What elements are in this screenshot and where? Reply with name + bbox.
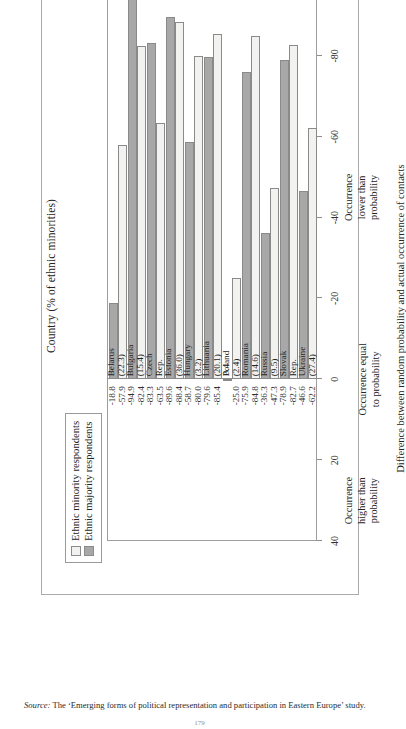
rotated-figure: Country (% of ethnic minorities) Ethnic … bbox=[35, 0, 365, 607]
category-label: Hungary (3.2) bbox=[182, 344, 203, 376]
open-square-icon bbox=[71, 546, 81, 556]
bar-group: -83.3-63.5Czech Rep. (21.0) bbox=[145, 0, 164, 541]
bar-majority bbox=[203, 58, 212, 380]
bar-group: -75.9-84.8Romania (14.6) bbox=[240, 0, 259, 541]
category-label: Belarus (22.3) bbox=[106, 348, 127, 376]
bar-value-label: -46.6 bbox=[298, 386, 307, 405]
bar-value-label: -63.5 bbox=[155, 386, 164, 405]
legend-label-majority: Ethnic majority respondents bbox=[82, 422, 95, 541]
axis-tick bbox=[317, 55, 322, 56]
bar-value-label: -79.6 bbox=[202, 386, 211, 405]
bar-value-label: -89.6 bbox=[164, 386, 173, 405]
axis-tick-label: 0 bbox=[329, 377, 340, 382]
legend-item-minority: Ethnic minority respondents bbox=[70, 421, 83, 556]
axis-tick bbox=[317, 540, 322, 541]
zone-label-higher: Occurrence higher than probability bbox=[343, 456, 381, 546]
plot-area: 40200-20-40-60-80-100 -18.8-57.9Belarus … bbox=[107, 0, 317, 541]
category-label: Romania (14.6) bbox=[239, 343, 260, 376]
bar-minority bbox=[136, 46, 145, 379]
category-axis-title: Country (% of ethnic minorities) bbox=[45, 0, 57, 607]
filled-square-icon bbox=[84, 546, 94, 556]
source-label: Source: bbox=[24, 700, 50, 710]
bar-minority bbox=[193, 56, 202, 379]
bar-minority bbox=[174, 22, 183, 379]
page-number: 179 bbox=[0, 719, 399, 727]
zone-label-lower: Occurrence lower than probability bbox=[343, 152, 381, 242]
bar-minority bbox=[308, 128, 317, 379]
bar-value-label: -57.9 bbox=[117, 386, 126, 405]
bar-value-label: -36.3 bbox=[260, 386, 269, 405]
bar-value-label: -83.3 bbox=[145, 386, 154, 405]
category-label: Estonia (36.0) bbox=[163, 349, 184, 377]
zone-label-equal: Occurrence equal to probability bbox=[357, 329, 382, 429]
bar-value-label: -85.4 bbox=[212, 386, 221, 405]
bar-group: -46.6-62.2Ukraine (27.4) bbox=[297, 0, 316, 541]
legend-label-minority: Ethnic minority respondents bbox=[70, 421, 83, 541]
bar-majority bbox=[127, 0, 136, 379]
axis-tick-label: -20 bbox=[329, 292, 340, 305]
axis-tick-label: 20 bbox=[329, 455, 340, 465]
bar-value-label: -75.9 bbox=[241, 386, 250, 405]
bar-group: -58.7-80.0Hungary (3.2) bbox=[183, 0, 202, 541]
category-label: Poland (2.4) bbox=[220, 351, 241, 377]
bar-value-label: -78.9 bbox=[279, 386, 288, 405]
bar-group: -18.8-57.9Belarus (22.3) bbox=[107, 0, 126, 541]
category-label: Bulgaria (15.4) bbox=[125, 345, 146, 377]
bar-minority bbox=[289, 45, 298, 379]
bar-minority bbox=[212, 34, 221, 379]
axis-tick-label: 40 bbox=[329, 536, 340, 546]
source-text: The ‘Emerging forms of political represe… bbox=[52, 700, 365, 710]
axis-tick-label: -40 bbox=[329, 211, 340, 224]
bar-majority bbox=[223, 379, 232, 381]
axis-tick-label: -80 bbox=[329, 49, 340, 62]
category-label: Ukraine (27.4) bbox=[296, 347, 317, 377]
bar-majority bbox=[146, 43, 155, 380]
bar-minority bbox=[251, 36, 260, 379]
bar-group: -94.9-82.4Bulgaria (15.4) bbox=[126, 0, 145, 541]
bar-majority bbox=[165, 17, 174, 379]
bar-majority bbox=[242, 72, 251, 379]
category-label: Lithuania (20.1) bbox=[201, 341, 222, 376]
axis-tick-label: -60 bbox=[329, 130, 340, 143]
bar-group: -36.3-47.3Russia (9.5) bbox=[259, 0, 278, 541]
bar-value-label: -18.8 bbox=[107, 386, 116, 405]
bar-value-label: -62.2 bbox=[308, 386, 317, 405]
source-caption: Source: The ‘Emerging forms of political… bbox=[24, 700, 376, 711]
legend-item-majority: Ethnic majority respondents bbox=[82, 421, 95, 556]
bar-majority bbox=[280, 60, 289, 379]
axis-tick bbox=[317, 459, 322, 460]
bar-value-label: -82.4 bbox=[136, 386, 145, 405]
bar-group: -79.6-85.4Lithuania (20.1) bbox=[202, 0, 221, 541]
bar-value-label: -58.7 bbox=[183, 386, 192, 405]
bar-minority bbox=[155, 123, 164, 380]
bar-value-label: -94.9 bbox=[126, 386, 135, 405]
bar-group: -78.9-82.7Slovak Rep. (14.2) bbox=[278, 0, 297, 541]
bar-group: -89.6-88.4Estonia (36.0) bbox=[164, 0, 183, 541]
chart-legend: Ethnic minority respondents Ethnic major… bbox=[65, 413, 102, 563]
bar-group: 0.4-25.0Poland (2.4) bbox=[221, 0, 240, 541]
bar-groups: -18.8-57.9Belarus (22.3)-94.9-82.4Bulgar… bbox=[107, 0, 317, 541]
category-label: Russia (9.5) bbox=[258, 352, 279, 377]
value-axis-title: Difference between random probability an… bbox=[395, 149, 406, 489]
